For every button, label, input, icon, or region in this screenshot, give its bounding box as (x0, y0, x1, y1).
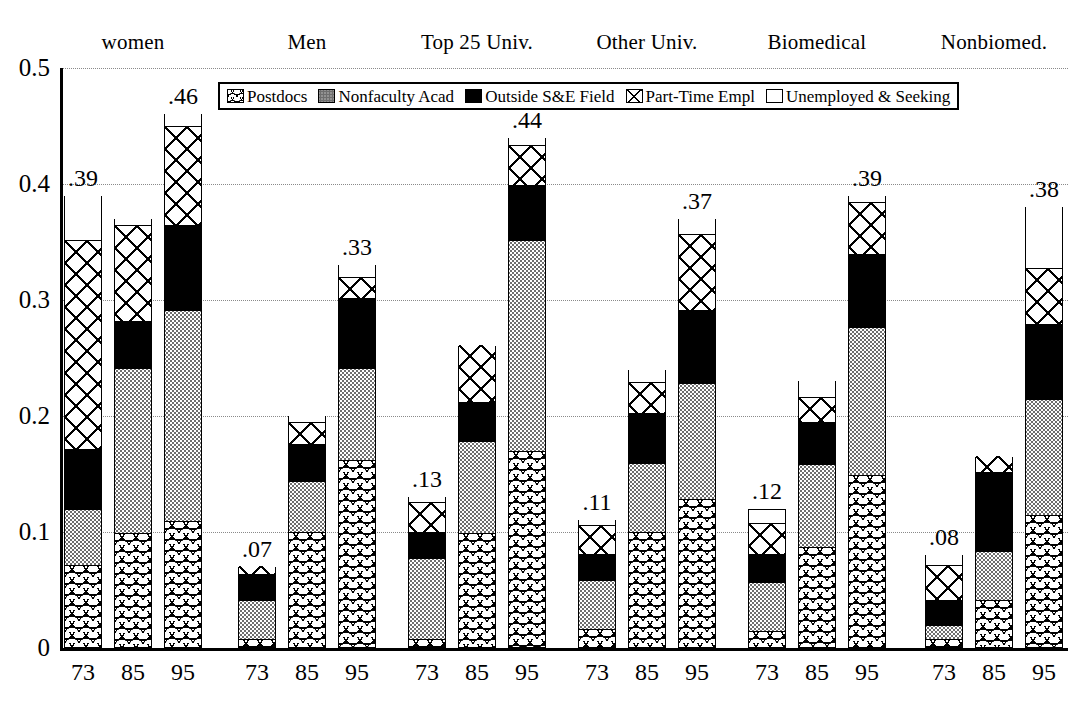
bar-other-univ--95[interactable] (678, 219, 716, 648)
segment-outside-se-field (409, 533, 445, 559)
y-axis-line (60, 68, 63, 650)
segment-outside-se-field (799, 423, 835, 465)
segment-part-time-empl (799, 398, 835, 424)
segment-outside-se-field (289, 445, 325, 482)
segment-outside-se-field (849, 255, 885, 328)
segment-outside-se-field (926, 601, 962, 627)
legend-item-3[interactable]: Outside S&E Field (465, 88, 614, 105)
bar-biomedical-73[interactable] (748, 509, 786, 648)
legend-label: Part-Time Empl (646, 88, 755, 105)
x-axis-line (60, 648, 1068, 651)
bar-women-73[interactable] (64, 196, 102, 648)
legend-item-2[interactable]: Nonfaculty Acad (318, 88, 454, 105)
legend-item-5[interactable]: Unemployed & Seeking (766, 88, 950, 105)
segment-unemployed-seeking (409, 496, 445, 503)
x-tick-73: 73 (230, 660, 284, 684)
legend-label: Outside S&E Field (485, 88, 614, 105)
segment-postdocs (849, 476, 885, 647)
segment-nonfaculty-acad (579, 581, 615, 630)
segment-part-time-empl (165, 127, 201, 226)
segment-unemployed-seeking (629, 369, 665, 383)
segment-part-time-empl (629, 383, 665, 414)
bar-top-25-univ--73[interactable] (408, 497, 446, 648)
bar-other-univ--73[interactable] (578, 520, 616, 648)
segment-part-time-empl (409, 503, 445, 533)
bar-value-label: .12 (728, 479, 806, 503)
segment-unemployed-seeking (799, 380, 835, 397)
segment-outside-se-field (509, 186, 545, 241)
x-tick-85: 85 (620, 660, 674, 684)
bar-men-73[interactable] (238, 567, 276, 648)
bar-value-label: .13 (388, 467, 466, 491)
bar-value-label: .38 (1005, 177, 1077, 201)
stacked-bar-chart: 00.10.20.30.40.5womenMenTop 25 Univ.Othe… (0, 0, 1077, 714)
x-tick-95: 95 (670, 660, 724, 684)
segment-part-time-empl (1026, 269, 1062, 325)
segment-unemployed-seeking (339, 264, 375, 278)
unemployed-swatch-icon (766, 89, 783, 103)
segment-nonfaculty-acad (115, 369, 151, 535)
segment-part-time-empl (749, 524, 785, 555)
segment-unemployed-seeking (926, 554, 962, 566)
segment-nonfaculty-acad (849, 328, 885, 476)
bar-top-25-univ--95[interactable] (508, 138, 546, 648)
bar-nonbiomed--85[interactable] (975, 457, 1013, 648)
y-tick-label-0.3: 0.3 (2, 287, 50, 312)
legend-item-1[interactable]: Postdocs (227, 88, 307, 105)
x-tick-95: 95 (1017, 660, 1071, 684)
segment-postdocs (239, 640, 275, 647)
x-tick-73: 73 (56, 660, 110, 684)
x-tick-85: 85 (280, 660, 334, 684)
y-tick-label-0.2: 0.2 (2, 403, 50, 428)
bar-biomedical-85[interactable] (798, 381, 836, 648)
postdocs-swatch-icon (227, 89, 244, 103)
bar-value-label: .44 (488, 108, 566, 132)
nonfaculty-swatch-icon (318, 89, 335, 103)
x-tick-95: 95 (156, 660, 210, 684)
segment-outside-se-field (165, 226, 201, 311)
segment-outside-se-field (339, 299, 375, 369)
bar-nonbiomed--95[interactable] (1025, 207, 1063, 648)
segment-part-time-empl (289, 423, 325, 445)
x-tick-73: 73 (740, 660, 794, 684)
x-tick-95: 95 (330, 660, 384, 684)
segment-unemployed-seeking (1026, 206, 1062, 269)
x-tick-85: 85 (790, 660, 844, 684)
segment-nonfaculty-acad (926, 626, 962, 640)
bar-top-25-univ--85[interactable] (458, 346, 496, 648)
chart-legend: PostdocsNonfaculty AcadOutside S&E Field… (218, 82, 959, 110)
bar-men-95[interactable] (338, 265, 376, 648)
gridline-0.4 (60, 184, 1068, 185)
segment-nonfaculty-acad (289, 482, 325, 533)
x-tick-73: 73 (400, 660, 454, 684)
y-tick-label-0.4: 0.4 (2, 171, 50, 196)
segment-outside-se-field (679, 311, 715, 384)
segment-unemployed-seeking (749, 514, 785, 524)
x-tick-85: 85 (967, 660, 1021, 684)
bar-value-label: .11 (558, 490, 636, 514)
segment-nonfaculty-acad (239, 601, 275, 640)
x-tick-73: 73 (917, 660, 971, 684)
segment-outside-se-field (65, 450, 101, 510)
bar-value-label: .39 (44, 166, 122, 190)
bar-women-95[interactable] (164, 114, 202, 648)
gridline-0.3 (60, 300, 1068, 301)
bar-other-univ--85[interactable] (628, 370, 666, 648)
bar-value-label: .39 (828, 166, 906, 190)
segment-part-time-empl (115, 226, 151, 322)
bar-nonbiomed--73[interactable] (925, 555, 963, 648)
legend-item-4[interactable]: Part-Time Empl (626, 88, 755, 105)
segment-outside-se-field (1026, 325, 1062, 400)
segment-postdocs (976, 601, 1012, 647)
segment-postdocs (629, 533, 665, 647)
segment-unemployed-seeking (65, 195, 101, 241)
bar-biomedical-95[interactable] (848, 196, 886, 648)
segment-postdocs (65, 566, 101, 647)
segment-postdocs (579, 630, 615, 647)
bar-women-85[interactable] (114, 219, 152, 648)
segment-postdocs (409, 640, 445, 647)
bar-value-label: .07 (218, 537, 296, 561)
bar-men-85[interactable] (288, 416, 326, 648)
segment-postdocs (509, 452, 545, 647)
x-tick-95: 95 (840, 660, 894, 684)
